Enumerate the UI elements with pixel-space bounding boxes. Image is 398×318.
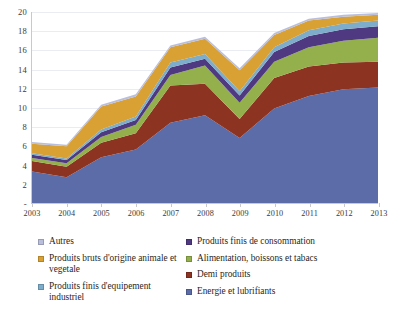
x-axis-tick-mark [275,203,276,207]
x-axis-tick-label: 2006 [128,209,145,218]
chart-page: -2468101214161820 2003200420052006200720… [0,0,398,318]
legend-item[interactable]: Produits finis de consommation [186,236,391,248]
y-axis-tick-label: 8 [23,122,27,132]
legend-swatch-icon [38,256,44,262]
x-axis-tick-label: 2003 [24,209,41,218]
y-axis-tick-label: 16 [18,45,27,55]
legend-swatch-icon [186,289,192,295]
x-axis-tick-label: 2005 [93,209,110,218]
legend-item[interactable]: Produits finis d'equipement industriel [38,281,188,304]
legend-column-left: AutresProduits bruts d'origine animale e… [38,236,188,309]
legend-swatch-icon [186,256,192,262]
x-axis-tick-mark [240,203,241,207]
x-axis-tick-label: 2004 [58,209,75,218]
legend-item-label: Produits finis d'equipement industriel [49,281,188,304]
legend-item[interactable]: Alimentation, boissons et tabacs [186,253,391,265]
x-axis-tick-mark [310,203,311,207]
stacked-area-chart: -2468101214161820 2003200420052006200720… [0,0,398,232]
legend-column-right: Produits finis de consommationAlimentati… [186,236,391,302]
x-axis-tick-mark [136,203,137,207]
x-axis-tick-mark [67,203,68,207]
legend-item-label: Autres [49,236,74,248]
x-axis-tick-label: 2013 [371,209,388,218]
x-axis-tick-label: 2007 [162,209,179,218]
x-axis-tick-mark [344,203,345,207]
x-axis-tick-mark [32,203,33,207]
legend-item[interactable]: Demi produits [186,269,391,281]
x-axis-tick-mark [206,203,207,207]
x-axis-tick-label: 2009 [232,209,249,218]
y-axis-tick-label: 14 [18,65,27,75]
legend-item[interactable]: Autres [38,236,188,248]
x-axis-tick-label: 2012 [336,209,353,218]
legend-item-label: Energie et lubrifiants [197,286,275,298]
x-axis-tick-label: 2010 [267,209,284,218]
legend-item[interactable]: Produits bruts d'origine animale et vege… [38,253,188,276]
y-axis-tick-label: 4 [23,161,27,171]
legend-item-label: Demi produits [197,269,250,281]
y-axis-tick-label: 6 [23,141,27,151]
y-axis-tick-label: 2 [23,180,27,190]
legend-item-label: Produits finis de consommation [197,236,315,248]
legend-swatch-icon [38,284,44,290]
legend-item[interactable]: Energie et lubrifiants [186,286,391,298]
y-axis-tick-label: 18 [18,26,27,36]
x-axis-tick-mark [379,203,380,207]
plot-area: -2468101214161820 2003200420052006200720… [31,12,378,204]
x-axis-tick-label: 2011 [301,209,317,218]
y-axis-tick-label: - [24,199,27,209]
x-axis-tick-label: 2008 [197,209,214,218]
legend-item-label: Alimentation, boissons et tabacs [197,253,317,265]
y-axis-tick-label: 20 [18,7,27,17]
legend-item-label: Produits bruts d'origine animale et vege… [49,253,188,276]
chart-legend: AutresProduits bruts d'origine animale e… [0,236,398,318]
area-series-svg [32,12,378,203]
y-axis-tick-label: 10 [18,103,27,113]
x-axis-tick-mark [101,203,102,207]
y-axis-tick-label: 12 [18,84,27,94]
legend-swatch-icon [38,239,44,245]
x-axis-tick-mark [171,203,172,207]
legend-swatch-icon [186,272,192,278]
legend-swatch-icon [186,239,192,245]
